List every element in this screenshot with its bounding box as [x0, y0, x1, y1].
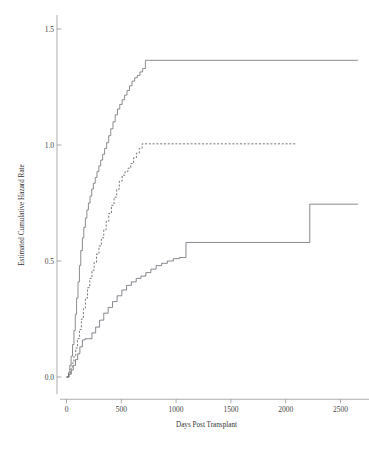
y-axis-title: Estimated Cumulative Hazard Rate	[18, 164, 26, 266]
x-tick-label: 500	[116, 405, 128, 414]
series-middle-curve	[67, 144, 297, 377]
cumulative-hazard-chart: 0.00.51.01.505001000150020002500Days Pos…	[0, 0, 369, 451]
y-tick-label: 1.5	[45, 25, 55, 34]
y-tick-label: 0.0	[45, 373, 55, 382]
x-tick-label: 2500	[333, 405, 348, 414]
y-tick-label: 0.5	[45, 257, 55, 266]
x-tick-label: 1500	[223, 405, 238, 414]
hazard-rate-figure: 0.00.51.01.505001000150020002500Days Pos…	[0, 0, 369, 451]
series-upper-curve	[67, 60, 359, 377]
x-tick-label: 2000	[278, 405, 293, 414]
x-tick-label: 0	[65, 405, 69, 414]
y-tick-label: 1.0	[45, 141, 55, 150]
x-tick-label: 1000	[169, 405, 184, 414]
series-lower-curve	[67, 204, 359, 377]
x-axis-title: Days Post Transplant	[176, 421, 237, 429]
